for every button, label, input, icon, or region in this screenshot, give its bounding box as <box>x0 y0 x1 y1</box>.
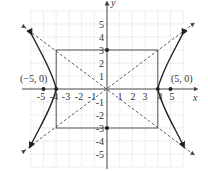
y-tick: 5 <box>99 19 104 30</box>
x-axis-label: x <box>192 92 198 103</box>
x-tick: -3 <box>62 91 70 102</box>
x-tick: -4 <box>50 91 58 102</box>
y-tick: 2 <box>99 58 104 69</box>
x-tick: 2 <box>131 91 136 102</box>
y-tick: -5 <box>96 149 104 160</box>
x-tick: -5 <box>37 91 45 102</box>
y-tick: -1 <box>96 97 104 108</box>
hyperbola-graph: x y -5 -4 -3 -2 -1 1 2 3 4 5 5 4 3 2 1 -… <box>0 0 208 171</box>
y-tick: -3 <box>96 123 104 134</box>
x-tick-labels: -5 -4 -3 -2 -1 1 2 3 4 5 <box>37 91 175 102</box>
x-tick: 4 <box>158 91 163 102</box>
asymptote-positive <box>24 24 193 151</box>
x-tick: 5 <box>170 91 175 102</box>
y-tick: 1 <box>99 71 104 82</box>
y-tick: -2 <box>96 110 104 121</box>
x-tick: -2 <box>75 91 83 102</box>
y-tick: -4 <box>96 136 104 147</box>
y-tick: 4 <box>99 32 104 43</box>
top-covertex-point <box>105 48 109 52</box>
bottom-covertex-point <box>105 126 109 130</box>
x-tick: 3 <box>143 91 148 102</box>
left-focus-label: (−5, 0) <box>20 73 47 85</box>
right-focus-label: (5, 0) <box>171 73 193 85</box>
y-axis-label: y <box>110 0 116 8</box>
x-tick: 1 <box>118 91 123 102</box>
y-tick: 3 <box>99 45 104 56</box>
